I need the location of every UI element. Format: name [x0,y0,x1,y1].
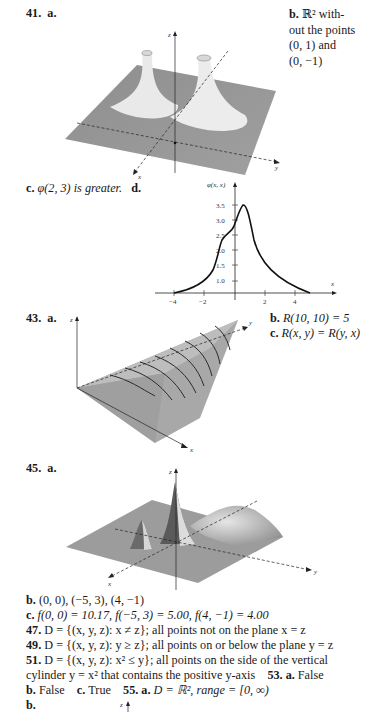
svg-text:2.5: 2.5 [216,232,225,240]
problem-41-surface-plot: z y x [60,25,290,180]
y-axis-label: y [274,164,279,172]
y-axis-title: φ(x, x) [207,181,226,189]
problem-41-part-b: b. ℝ² with- out the points (0, 1) and (0… [289,7,355,69]
problem-43-part-b: b. R(10, 10) = 5 [270,311,349,327]
answer-49: 49. D = {(x, y, z): y ≥ z}; all points o… [26,638,333,654]
z-axis-label: z [69,316,73,324]
svg-text:−4: −4 [169,298,177,306]
problem-45-part-c: c. f(0, 0) = 10.17, f(−5, 3) = 5.00, f(4… [26,608,269,624]
problem-43-surface-plot: z y x [70,318,260,458]
problem-45-surface-plot: z y x [60,466,290,591]
svg-text:4: 4 [293,298,297,306]
x-axis-label: x [137,173,142,181]
problem-55-plot-top: z [118,700,138,712]
svg-text:1.5: 1.5 [216,262,225,270]
y-axis-label: y [313,568,318,576]
x-axis-label: x [189,446,194,454]
phi-x-x-line-chart: φ(x, x) x 1.0 1.5 2.0 2.5 3.0 3.5 −4 −2 … [150,180,350,310]
problem-43-part-c: c. R(x, y) = R(y, x) [270,326,360,342]
problem-45-number: 45. a. [26,461,56,477]
z-axis-label: z [167,31,171,39]
svg-text:−2: −2 [199,298,207,306]
answer-47: 47. D = {(x, y, z): x ≠ z}; all points n… [26,623,306,639]
answer-55-part-b: b. [26,698,36,714]
svg-text:3.5: 3.5 [216,202,225,210]
x-axis-title: x [330,280,335,288]
problem-45-part-b: b. (0, 0), (−5, 3), (4, −1) [26,593,144,609]
svg-text:3.0: 3.0 [216,217,225,225]
svg-text:1.0: 1.0 [216,277,225,285]
x-axis-label: x [107,580,112,588]
answer-51: 51. D = {(x, y, z): x² ≤ y}; all points … [26,653,328,669]
y-axis-label: y [248,319,253,327]
svg-text:z: z [119,701,123,709]
answer-53-55: b. False c. True 55. a. D = ℝ², range = … [26,683,269,699]
answer-51-continued: cylinder y = x² that contains the positi… [26,668,324,684]
problem-41-number: 41. a. [26,6,56,22]
z-axis-label: z [168,468,172,476]
problem-41-part-c: c. φ(2, 3) is greater. d. [26,181,141,197]
svg-text:2: 2 [263,298,267,306]
problem-43-number: 43. a. [26,311,56,327]
